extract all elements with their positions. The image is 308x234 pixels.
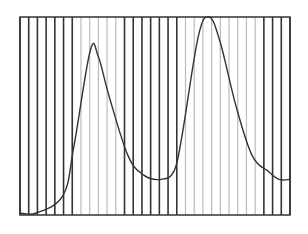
- two-peak-line-chart: [0, 0, 308, 234]
- chart-frame: [20, 17, 290, 215]
- vertical-grid-lines: [20, 17, 290, 215]
- data-curve: [20, 17, 290, 215]
